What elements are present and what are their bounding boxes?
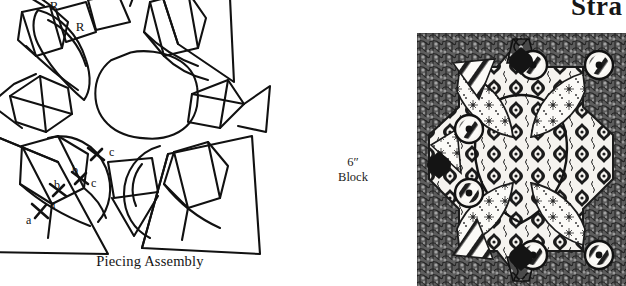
label-b-upper: b (72, 163, 78, 177)
block-size-label: 6″ Block (322, 155, 384, 184)
section-heading: Stra (571, 0, 626, 22)
piecing-assembly-diagram: R R c c b b a a (0, 0, 322, 258)
label-c-outer: c (109, 145, 114, 159)
label-a-upper: a (50, 197, 56, 211)
label-a-lower: a (26, 213, 32, 227)
piecing-assembly-caption: Piecing Assembly (0, 253, 300, 270)
label-b-lower: b (54, 178, 60, 192)
label-R-outer: R (50, 0, 59, 13)
block-size-value: 6″ (322, 155, 384, 170)
quilt-block-photo (417, 33, 626, 286)
label-c-inner: c (91, 176, 96, 190)
page-canvas: R R c c b b a a Piecing Assembly 6″ Bloc… (0, 0, 626, 286)
label-R-inner: R (76, 19, 85, 34)
block-size-word: Block (322, 170, 384, 185)
